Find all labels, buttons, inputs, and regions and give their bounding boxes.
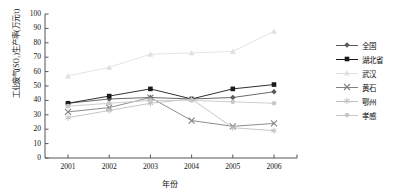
legend-item-孝感[interactable]: 孝感 — [336, 108, 383, 122]
legend-marker-star-icon — [336, 96, 358, 106]
series-line — [68, 31, 274, 76]
legend-item-黄石[interactable]: 黄石 — [336, 80, 383, 94]
legend-marker-cross-icon — [336, 82, 358, 92]
data-point-marker — [271, 89, 276, 94]
x-tick-label: 2001 — [46, 162, 90, 171]
y-tick-label: 20 — [19, 125, 41, 133]
series-4 — [65, 96, 276, 134]
data-point-marker — [272, 101, 277, 106]
y-tick-label: 0 — [19, 154, 41, 162]
data-point-marker — [148, 98, 153, 103]
y-tick-label: 10 — [19, 140, 41, 148]
data-point-marker — [107, 101, 112, 106]
y-tick-label: 90 — [19, 24, 41, 32]
series-3 — [65, 95, 277, 130]
legend-item-武汉[interactable]: 武汉 — [336, 66, 383, 80]
y-tick-label: 100 — [19, 10, 41, 18]
x-tick-label: 2003 — [128, 162, 172, 171]
y-tick-label: 50 — [19, 82, 41, 90]
legend-marker-square-icon — [336, 54, 358, 64]
legend-marker-triangle-icon — [336, 68, 358, 78]
legend-label: 黄石 — [362, 82, 376, 93]
legend-item-鄂州[interactable]: 鄂州 — [336, 94, 383, 108]
chart-container: 工业废气(SO₂)生产率(万元/t) 010203040506070809010… — [0, 0, 404, 196]
legend-item-全国[interactable]: 全国 — [336, 38, 383, 52]
x-tick-label: 2006 — [252, 162, 296, 171]
data-point-marker — [271, 28, 277, 33]
x-axis-title: 年份 — [45, 178, 295, 189]
data-point-marker — [148, 87, 153, 92]
data-point-marker — [189, 98, 194, 103]
x-tick-label: 2002 — [87, 162, 131, 171]
y-axis-title: 工业废气(SO₂)生产率(万元/t) — [10, 0, 21, 129]
data-point-marker — [231, 87, 236, 92]
legend-marker-diamond-icon — [336, 40, 358, 50]
data-point-marker — [230, 95, 235, 100]
legend-label: 鄂州 — [362, 96, 376, 107]
y-tick-label: 60 — [19, 68, 41, 76]
y-tick-label: 40 — [19, 96, 41, 104]
legend-label: 湖北省 — [362, 54, 383, 65]
y-tick-label: 70 — [19, 53, 41, 61]
series-2 — [65, 28, 277, 78]
legend-label: 孝感 — [362, 110, 376, 121]
legend-item-湖北省[interactable]: 湖北省 — [336, 52, 383, 66]
legend-label: 武汉 — [362, 68, 376, 79]
data-point-marker — [272, 82, 277, 87]
x-tick-label: 2004 — [170, 162, 214, 171]
data-point-marker — [107, 94, 112, 99]
y-tick-label: 30 — [19, 111, 41, 119]
series-5 — [66, 98, 277, 108]
y-tick-label: 80 — [19, 39, 41, 47]
x-tick-label: 2005 — [211, 162, 255, 171]
data-point-marker — [231, 100, 236, 105]
legend-label: 全国 — [362, 40, 376, 51]
series-0 — [65, 89, 276, 106]
chart-legend: 全国湖北省武汉黄石鄂州孝感 — [336, 38, 383, 122]
legend-marker-circle-icon — [336, 110, 358, 120]
data-point-marker — [66, 104, 71, 109]
